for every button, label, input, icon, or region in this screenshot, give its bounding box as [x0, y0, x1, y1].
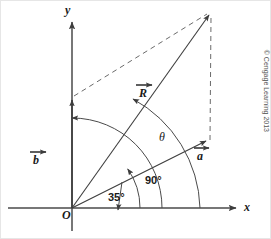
angle-theta-label: θ	[159, 131, 165, 143]
y-axis-label: y	[65, 4, 70, 16]
angle-35-label: 35°	[108, 192, 125, 203]
angle-90-label: 90°	[145, 175, 162, 186]
vector-b-label: b	[33, 154, 39, 166]
figure-border	[1, 1, 271, 239]
vector-a-label: a	[197, 150, 203, 162]
origin-label: O	[62, 209, 71, 221]
vector-diagram-canvas	[0, 0, 271, 239]
vector-R-label: R	[139, 87, 147, 99]
copyright-credit: © Cengage Learning 2013	[263, 50, 270, 132]
x-axis-label: x	[244, 201, 250, 213]
